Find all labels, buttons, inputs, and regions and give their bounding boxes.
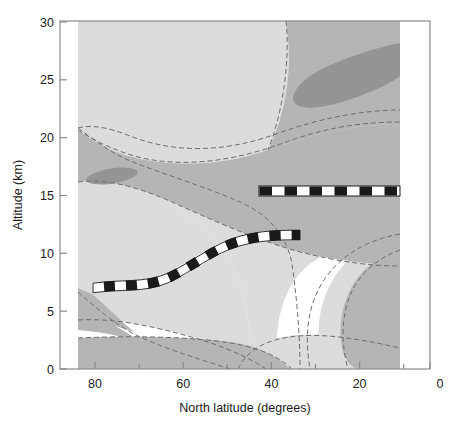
y-tick-label-10: 10 bbox=[40, 247, 54, 261]
y-axis: 0 5 10 15 20 25 30 Altitude (km) bbox=[11, 16, 67, 377]
x-axis-title: North latitude (degrees) bbox=[179, 401, 310, 415]
x-tick-label-80: 80 bbox=[88, 377, 102, 391]
y-tick-label-15: 15 bbox=[40, 189, 54, 203]
upper-checkered-band bbox=[259, 186, 400, 196]
figure-root: 0 5 10 15 20 25 30 Altitude (km) bbox=[0, 0, 461, 430]
y-tick-marks bbox=[60, 22, 67, 369]
y-tick-label-25: 25 bbox=[40, 73, 54, 87]
x-tick-label-20: 20 bbox=[353, 377, 367, 391]
contour-plot-svg: 0 5 10 15 20 25 30 Altitude (km) bbox=[0, 0, 461, 430]
y-tick-label-20: 20 bbox=[40, 131, 54, 145]
x-tick-label-60: 60 bbox=[176, 377, 190, 391]
x-tick-label-0: 0 bbox=[437, 377, 444, 391]
y-tick-label-5: 5 bbox=[47, 305, 54, 319]
y-tick-label-30: 30 bbox=[40, 16, 54, 30]
x-axis: 80 60 40 20 0 North latitude (degrees) bbox=[88, 362, 443, 415]
x-tick-label-40: 40 bbox=[264, 377, 278, 391]
y-axis-title: Altitude (km) bbox=[11, 160, 25, 230]
y-tick-label-0: 0 bbox=[47, 363, 54, 377]
